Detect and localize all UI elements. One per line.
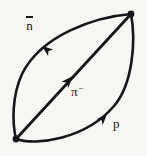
vertex-top-right: [128, 11, 135, 18]
label-antineutron: n: [26, 16, 33, 32]
label-pion-base: π: [71, 84, 78, 99]
particle-diagram: n π− p: [0, 0, 147, 156]
label-antineutron-glyph: n: [26, 19, 33, 32]
label-pion-superscript: −: [78, 83, 83, 93]
label-pion: π−: [71, 84, 84, 98]
vertex-bottom-left: [13, 136, 20, 143]
diagram-canvas: [0, 0, 147, 156]
label-proton: p: [113, 117, 120, 130]
